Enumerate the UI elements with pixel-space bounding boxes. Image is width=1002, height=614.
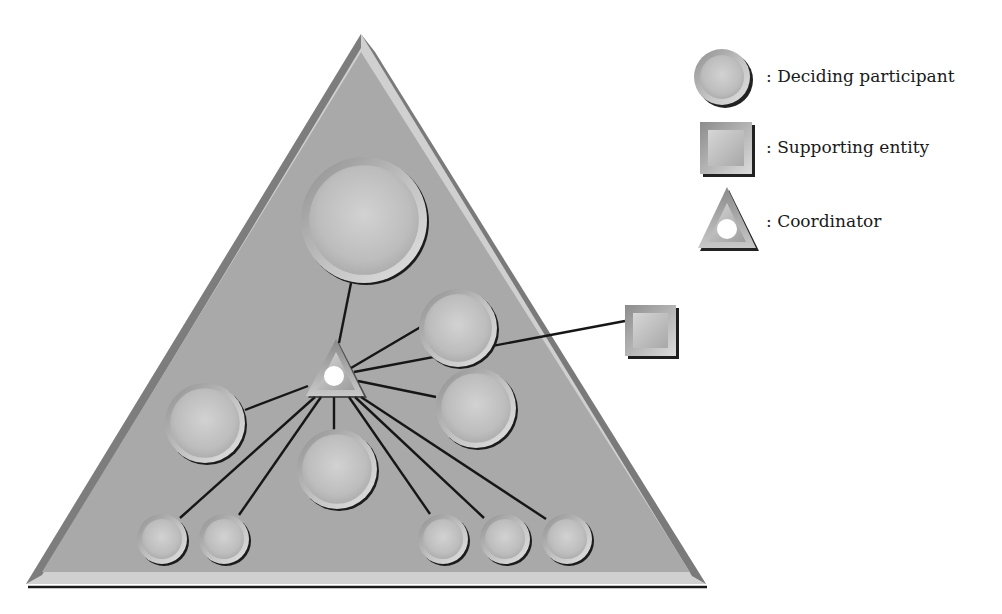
network-diagram [0, 0, 1002, 614]
legend [694, 49, 759, 251]
legend-label-supporting-entity: : Supporting entity [766, 137, 929, 157]
organization-triangle [26, 34, 707, 587]
supporting-entity-s-1[interactable] [625, 305, 679, 359]
legend-square-icon [700, 122, 755, 177]
legend-circle-icon [694, 49, 753, 108]
supporting-entities [625, 305, 679, 359]
legend-label-deciding-participant: : Deciding participant [766, 66, 955, 86]
legend-triangle-icon [698, 187, 759, 251]
coordinator-hole-icon [324, 366, 344, 386]
legend-label-coordinator: : Coordinator [766, 211, 881, 231]
